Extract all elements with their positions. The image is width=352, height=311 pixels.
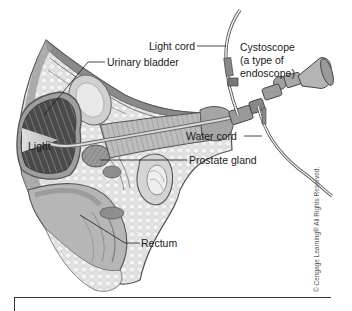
label-cystoscope-line2: (a type of xyxy=(240,54,284,66)
copyright-notice: © Cengage Learning® All Rights Reserved. xyxy=(313,167,320,292)
label-prostate-gland: Prostate gland xyxy=(189,154,257,166)
bottom-divider-tick xyxy=(14,297,15,311)
bottom-divider xyxy=(14,297,331,298)
label-light-cord: Light cord xyxy=(149,40,195,52)
label-light: Light xyxy=(28,140,51,152)
label-cystoscope-line1: Cystoscope xyxy=(240,41,295,53)
cystoscopy-diagram: Light cord Cystoscope (a type of endosco… xyxy=(0,0,352,311)
label-rectum: Rectum xyxy=(141,237,177,249)
label-water-cord: Water cord xyxy=(186,130,237,142)
label-cystoscope-line3: endoscope) xyxy=(240,67,295,79)
label-urinary-bladder: Urinary bladder xyxy=(107,56,179,68)
water-cord xyxy=(258,106,332,196)
prostate-gland xyxy=(82,145,110,167)
